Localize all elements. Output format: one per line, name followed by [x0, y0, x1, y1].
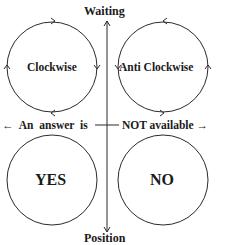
clockwise-arrow-top-icon [51, 18, 55, 24]
diagram-canvas: Waiting Position Clockwise Anti Clockwis… [0, 0, 225, 245]
anticlockwise-arrow-bottom-icon [160, 110, 164, 116]
no-label: NO [150, 172, 174, 188]
yes-label: YES [35, 172, 66, 188]
not-available-label: NOT available → [122, 120, 208, 132]
answer-is-label: ← An answer is [2, 120, 88, 132]
anticlockwise-label: Anti Clockwise [119, 62, 193, 74]
clockwise-label: Clockwise [27, 62, 77, 74]
axis-bottom-label: Position [84, 232, 125, 244]
clockwise-arrow-bottom-icon [51, 110, 55, 116]
anticlockwise-arrow-top-icon [163, 18, 167, 24]
axis-top-label: Waiting [84, 5, 125, 17]
